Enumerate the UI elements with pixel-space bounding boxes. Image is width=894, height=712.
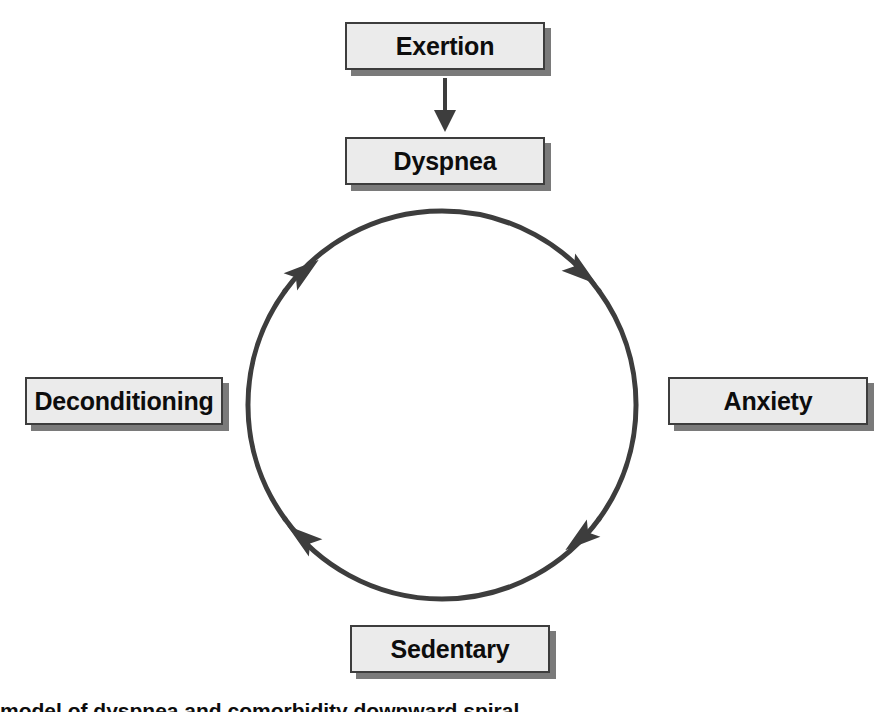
node-dyspnea-label: Dyspnea: [394, 149, 497, 174]
cycle-arrows-graphic: [0, 0, 894, 712]
node-anxiety[interactable]: Anxiety: [668, 377, 868, 425]
node-deconditioning[interactable]: Deconditioning: [25, 377, 223, 425]
node-sedentary-label: Sedentary: [390, 637, 509, 662]
diagram-canvas: Exertion Dyspnea Anxiety Sedentary Decon…: [0, 0, 894, 712]
node-sedentary[interactable]: Sedentary: [350, 625, 550, 673]
figure-caption-text: model of dyspnea and comorbidity downwar…: [0, 700, 894, 712]
node-deconditioning-label: Deconditioning: [34, 389, 213, 414]
arc-right: [599, 291, 636, 519]
node-exertion-label: Exertion: [396, 34, 494, 59]
node-anxiety-label: Anxiety: [724, 389, 813, 414]
figure-caption: model of dyspnea and comorbidity downwar…: [0, 700, 894, 712]
node-exertion[interactable]: Exertion: [345, 22, 545, 70]
arrowhead-top-left: [284, 251, 326, 291]
arrowhead-bottom-right: [558, 519, 600, 559]
node-dyspnea[interactable]: Dyspnea: [345, 137, 545, 185]
arrowhead-top-right: [562, 253, 604, 293]
arc-bottom: [285, 519, 599, 599]
arrow-exertion-to-dyspnea: [434, 78, 456, 132]
arc-left: [248, 291, 285, 519]
arrowhead-bottom-left: [280, 517, 322, 557]
arc-top: [285, 211, 599, 291]
